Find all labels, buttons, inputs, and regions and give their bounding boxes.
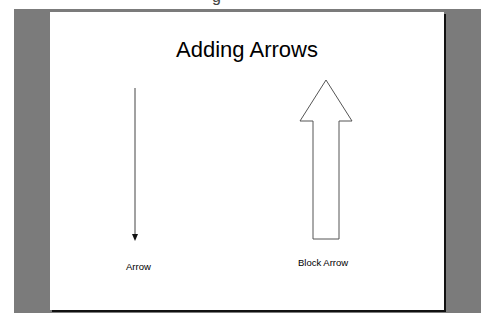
block-arrow-label[interactable]: Block Arrow: [298, 258, 348, 268]
block-arrow-shape[interactable]: [300, 80, 352, 239]
line-arrow-shape[interactable]: [132, 88, 138, 241]
slide-shapes: [0, 0, 482, 319]
arrow-label[interactable]: Arrow: [126, 262, 151, 272]
arrowhead-icon: [132, 234, 138, 241]
